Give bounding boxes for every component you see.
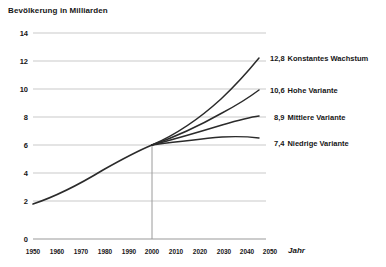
annotation-value-mittlere-variante: 8,9: [274, 113, 284, 122]
annotation-mittlere-variante: 8,9Mittlere Variante: [274, 113, 345, 122]
x-tick-1960: 1960: [44, 248, 70, 255]
annotation-label-konstantes-wachstum: Konstantes Wachstum: [288, 54, 369, 63]
x-tick-1980: 1980: [92, 248, 118, 255]
x-tick-2020: 2020: [187, 248, 213, 255]
x-tick-2050: 2050: [257, 248, 283, 255]
annotation-label-niedrige-variante: Niedrige Variante: [287, 139, 348, 148]
population-projection-chart: Bevölkerung in Milliarden 14 12 10 8 6 4…: [0, 0, 386, 267]
annotation-value-niedrige-variante: 7,4: [274, 139, 284, 148]
annotation-value-konstantes-wachstum: 12,8: [270, 54, 285, 63]
x-tick-1970: 1970: [68, 248, 94, 255]
x-axis-title: Jahr: [288, 246, 305, 255]
x-tick-2010: 2010: [163, 248, 189, 255]
annotation-label-hohe-variante: Hohe Variante: [288, 86, 338, 95]
series-historical-path: [33, 145, 152, 204]
annotation-label-mittlere-variante: Mittlere Variante: [287, 113, 345, 122]
series-path-mittlere-variante: [152, 116, 259, 145]
annotation-hohe-variante: 10,6Hohe Variante: [270, 86, 338, 95]
annotation-value-hohe-variante: 10,6: [270, 86, 285, 95]
annotation-niedrige-variante: 7,4Niedrige Variante: [274, 139, 349, 148]
chart-canvas: [0, 0, 386, 267]
x-tick-1950: 1950: [20, 248, 46, 255]
annotation-konstantes-wachstum: 12,8Konstantes Wachstum: [270, 54, 368, 63]
gridlines: [33, 33, 266, 201]
x-tick-2000: 2000: [139, 248, 165, 255]
